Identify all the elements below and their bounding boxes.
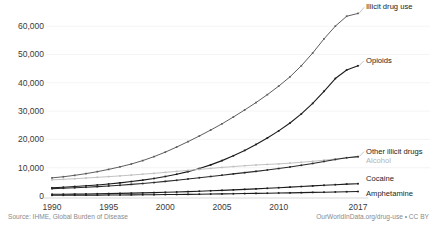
data-point-marker: [210, 176, 212, 178]
label-leader-line: [359, 152, 364, 157]
data-point-marker: [176, 146, 178, 148]
x-axis-tick-labels: 199019952000200520102017: [43, 202, 368, 212]
data-point-marker: [278, 168, 280, 170]
data-point-marker: [255, 171, 257, 173]
data-point-marker: [119, 184, 121, 186]
data-point-marker: [244, 150, 246, 152]
data-point-marker: [221, 193, 223, 195]
data-point-marker: [119, 182, 121, 184]
data-point-marker: [96, 186, 98, 188]
data-point-marker: [312, 185, 314, 187]
data-point-marker: [176, 173, 178, 175]
data-point-marker: [300, 164, 302, 166]
data-point-marker: [62, 194, 64, 196]
data-point-marker: [176, 194, 178, 196]
data-point-marker: [266, 94, 268, 96]
data-point-marker: [221, 167, 223, 169]
data-point-marker: [187, 170, 189, 172]
data-point-marker: [210, 164, 212, 166]
data-point-marker: [278, 85, 280, 87]
series-label-opioids: Opioids: [366, 56, 392, 65]
data-point-marker: [312, 160, 314, 162]
data-point-marker: [187, 141, 189, 143]
data-point-marker: [108, 169, 110, 171]
data-point-marker: [74, 187, 76, 189]
data-point-marker: [232, 166, 234, 168]
data-point-marker: [142, 192, 144, 194]
data-point-marker: [323, 90, 325, 92]
series-label-other-illicit-drugs: Other illicit drugs: [366, 147, 423, 156]
data-point-marker: [51, 188, 53, 190]
data-point-marker: [153, 182, 155, 184]
data-point-marker: [221, 189, 223, 191]
data-point-marker: [164, 191, 166, 193]
data-point-marker: [164, 172, 166, 174]
y-tick-label: 10,000: [18, 163, 44, 173]
data-point-marker: [108, 194, 110, 196]
data-point-marker: [119, 193, 121, 195]
data-point-marker: [198, 193, 200, 195]
data-point-marker: [289, 166, 291, 168]
data-point-marker: [198, 177, 200, 179]
data-point-marker: [255, 164, 257, 166]
data-point-marker: [255, 188, 257, 190]
data-point-marker: [153, 192, 155, 194]
data-point-marker: [62, 178, 64, 180]
data-point-marker: [210, 129, 212, 131]
y-tick-label: 40,000: [18, 78, 44, 88]
series-label-amphetamine: Amphetamine: [366, 189, 413, 198]
data-point-marker: [142, 173, 144, 175]
data-point-marker: [198, 135, 200, 137]
x-tick-label: 2000: [156, 202, 175, 212]
data-point-marker: [266, 137, 268, 139]
data-point-marker: [96, 194, 98, 196]
data-point-marker: [323, 38, 325, 40]
data-point-marker: [62, 176, 64, 178]
data-point-marker: [346, 69, 348, 71]
data-point-marker: [164, 176, 166, 178]
data-point-marker: [232, 189, 234, 191]
series-line-opioids: [52, 66, 358, 188]
label-leader-line: [359, 61, 364, 66]
data-point-marker: [153, 156, 155, 158]
data-point-marker: [244, 189, 246, 191]
chart-canvas: 010,00020,00030,00040,00050,00060,000 19…: [0, 0, 435, 235]
data-point-marker: [187, 193, 189, 195]
series-line-illicit-drug-use: [52, 13, 358, 177]
data-point-marker: [198, 169, 200, 171]
data-point-marker: [130, 174, 132, 176]
data-point-marker: [176, 171, 178, 173]
data-point-marker: [312, 52, 314, 54]
data-point-marker: [300, 113, 302, 115]
data-point-marker: [357, 156, 359, 158]
x-tick-label: 2010: [269, 202, 288, 212]
data-point-marker: [142, 160, 144, 162]
data-point-marker: [108, 176, 110, 178]
data-point-marker: [232, 173, 234, 175]
label-leader-line: [359, 7, 364, 13]
data-point-marker: [210, 168, 212, 170]
x-tick-label: 2017: [349, 202, 368, 212]
data-point-marker: [221, 160, 223, 162]
data-point-marker: [255, 144, 257, 146]
data-point-marker: [119, 166, 121, 168]
y-tick-label: 60,000: [18, 21, 44, 31]
data-point-marker: [346, 15, 348, 17]
data-point-marker: [346, 157, 348, 159]
data-point-marker: [74, 194, 76, 196]
data-point-marker: [221, 174, 223, 176]
data-point-marker: [130, 163, 132, 165]
data-point-marker: [323, 191, 325, 193]
data-point-marker: [142, 183, 144, 185]
data-point-marker: [266, 192, 268, 194]
data-point-marker: [289, 192, 291, 194]
data-point-marker: [176, 179, 178, 181]
data-point-marker: [74, 174, 76, 176]
y-tick-label: 20,000: [18, 134, 44, 144]
data-point-marker: [346, 183, 348, 185]
data-point-marker: [323, 184, 325, 186]
data-point-marker: [334, 159, 336, 161]
series-label-alcohol: Alcohol: [366, 156, 391, 165]
data-point-marker: [312, 163, 314, 165]
data-point-marker: [289, 76, 291, 78]
